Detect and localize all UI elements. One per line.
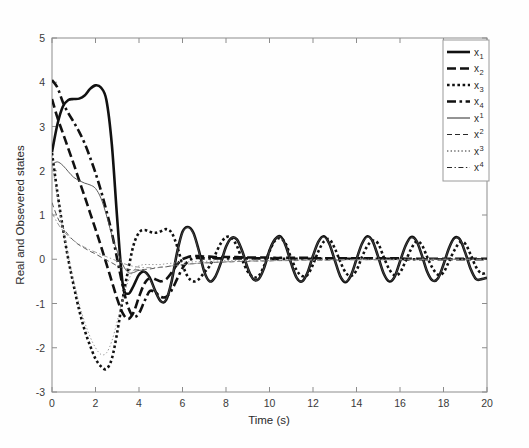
x-axis-label: Time (s) bbox=[248, 414, 290, 426]
y-axis-ticks: -3-2-1012345 bbox=[36, 32, 487, 398]
x-tick-label: 6 bbox=[180, 397, 186, 409]
chart-legend[interactable]: x1x2x3x4x1x2x3x4 bbox=[443, 40, 489, 181]
y-tick-label: 3 bbox=[39, 121, 45, 133]
x-tick-label: 4 bbox=[136, 397, 142, 409]
x-tick-label: 8 bbox=[223, 397, 229, 409]
chart-svg: 02468101214161820 -3-2-1012345 Time (s) … bbox=[0, 0, 529, 448]
y-tick-label: 5 bbox=[39, 32, 45, 44]
x-tick-label: 14 bbox=[351, 397, 363, 409]
curve-x4 bbox=[52, 80, 487, 317]
x-tick-label: 0 bbox=[49, 397, 55, 409]
y-tick-label: 0 bbox=[39, 253, 45, 265]
x-axis-ticks: 02468101214161820 bbox=[49, 38, 493, 409]
y-tick-label: -3 bbox=[36, 386, 45, 398]
y-tick-label: 2 bbox=[39, 165, 45, 177]
curve-x1 bbox=[52, 85, 487, 302]
x-tick-label: 12 bbox=[307, 397, 319, 409]
x-tick-label: 10 bbox=[264, 397, 276, 409]
y-axis-label: Real and Obsevered states bbox=[14, 145, 26, 285]
x-tick-label: 2 bbox=[93, 397, 99, 409]
y-tick-label: 4 bbox=[39, 76, 45, 88]
x-tick-label: 20 bbox=[481, 397, 493, 409]
y-tick-label: -1 bbox=[36, 298, 45, 310]
x-tick-label: 18 bbox=[438, 397, 450, 409]
x-tick-label: 16 bbox=[394, 397, 406, 409]
y-tick-label: -2 bbox=[36, 342, 45, 354]
data-curves bbox=[52, 80, 487, 369]
y-tick-label: 1 bbox=[39, 209, 45, 221]
figure-canvas: 02468101214161820 -3-2-1012345 Time (s) … bbox=[0, 0, 529, 448]
